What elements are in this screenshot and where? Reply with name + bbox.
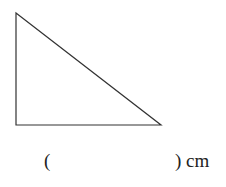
triangle	[16, 13, 161, 125]
answer-unit-label: ) cm	[175, 150, 209, 172]
answer-open-paren: (	[44, 150, 50, 172]
